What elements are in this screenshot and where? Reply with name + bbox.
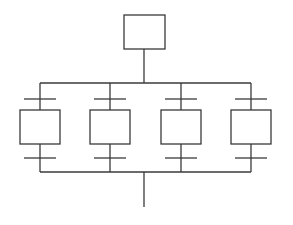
branch-4 xyxy=(231,83,271,172)
step-box xyxy=(90,110,130,144)
branch-2 xyxy=(90,83,130,172)
grafcet-diagram xyxy=(0,0,293,225)
initial-step-box xyxy=(124,15,165,49)
diagram-structure xyxy=(40,15,251,207)
parallel-branches xyxy=(20,83,271,172)
step-box xyxy=(231,110,271,144)
step-box xyxy=(161,110,201,144)
branch-1 xyxy=(20,83,60,172)
step-box xyxy=(20,110,60,144)
branch-3 xyxy=(161,83,201,172)
